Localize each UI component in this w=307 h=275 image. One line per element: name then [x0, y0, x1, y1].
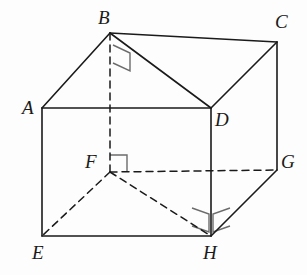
right-angle-marker-H-left: [192, 208, 209, 232]
edge-F-G: [110, 170, 277, 172]
edge-D-C: [211, 42, 277, 108]
vertex-label-B: B: [98, 8, 110, 27]
vertex-label-G: G: [281, 152, 295, 171]
edge-B-C: [110, 33, 277, 42]
solid-edges-layer: [42, 33, 277, 236]
edge-H-G: [211, 170, 277, 236]
vertex-label-C: C: [275, 12, 288, 31]
geometry-figure: ABCDEFGH: [0, 0, 307, 275]
vertex-label-D: D: [215, 110, 229, 129]
edge-F-E: [42, 172, 110, 236]
vertex-label-F: F: [85, 152, 97, 171]
right-angle-marker-F: [110, 155, 127, 172]
right-angle-marker-B: [113, 45, 130, 71]
vertex-label-A: A: [22, 98, 34, 117]
vertex-label-E: E: [32, 243, 44, 262]
right-angle-markers-layer: [110, 45, 230, 232]
edge-A-B: [42, 33, 110, 108]
vertex-label-H: H: [203, 243, 217, 262]
edge-B-D: [110, 33, 211, 108]
prism-line-drawing: [0, 0, 307, 275]
edge-F-H: [110, 172, 211, 236]
